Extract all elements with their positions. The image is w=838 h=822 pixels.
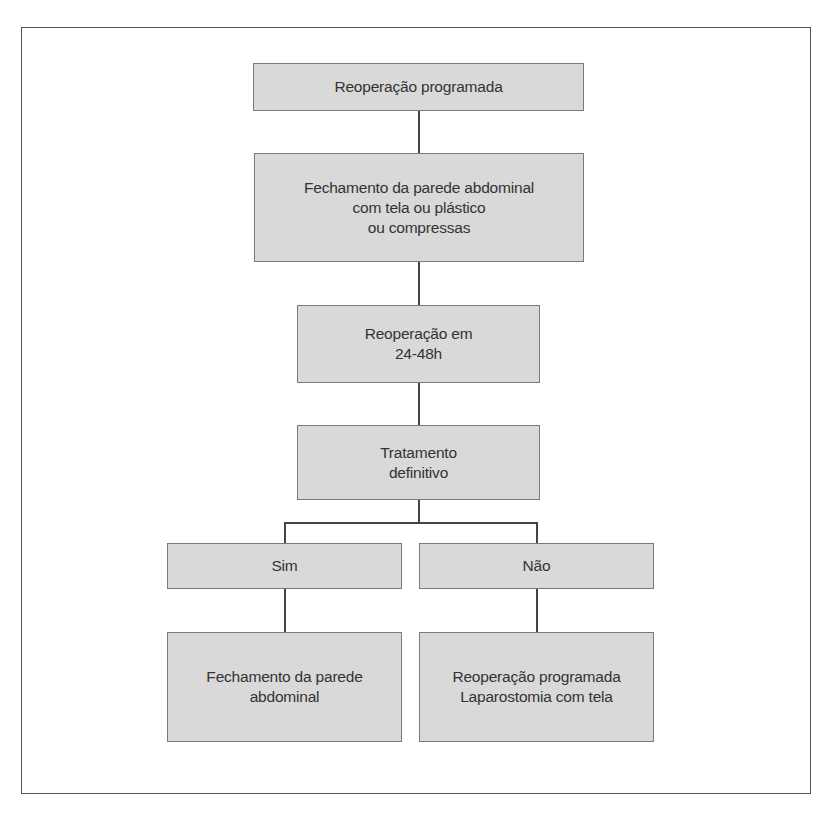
node-tratamento-definitivo: Tratamento definitivo (297, 425, 540, 500)
node-laparostomia: Reoperação programada Laparostomia com t… (419, 632, 654, 742)
branch-line (284, 522, 538, 524)
node-label: Fechamento da parede abdominal (206, 667, 362, 707)
node-fechamento-parede: Fechamento da parede abdominal (167, 632, 402, 742)
connector-line (284, 589, 286, 632)
connector-line (284, 522, 286, 543)
diagram-frame (21, 27, 811, 794)
node-label: Fechamento da parede abdominal com tela … (304, 178, 534, 238)
connector-line (536, 589, 538, 632)
connector-line (536, 522, 538, 543)
connector-line (418, 111, 420, 153)
node-label: Reoperação programada Laparostomia com t… (452, 667, 620, 707)
node-reoperacao-24-48h: Reoperação em 24-48h (297, 305, 540, 383)
node-label: Reoperação em 24-48h (365, 324, 473, 364)
node-fechamento-temporario: Fechamento da parede abdominal com tela … (254, 153, 584, 262)
node-label: Sim (271, 556, 297, 576)
node-label: Não (523, 556, 551, 576)
node-nao: Não (419, 543, 654, 589)
node-sim: Sim (167, 543, 402, 589)
connector-line (418, 383, 420, 425)
node-label: Tratamento definitivo (380, 443, 457, 483)
node-label: Reoperação programada (334, 77, 502, 97)
connector-line (418, 500, 420, 522)
node-reoperacao-programada: Reoperação programada (253, 63, 584, 111)
connector-line (418, 262, 420, 305)
